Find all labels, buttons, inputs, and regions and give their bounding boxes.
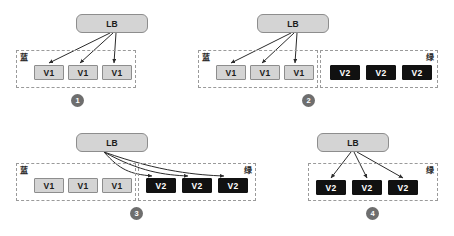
instance-node-v1[interactable]: V1	[68, 65, 98, 80]
step-badge: 4	[366, 207, 379, 220]
blue-green-deployment-diagram: LB 蓝 V1 V1 V1 1 LB 蓝 V1 V1 V1 绿 V2 V2 V2…	[0, 0, 454, 236]
instance-node-v2[interactable]: V2	[218, 178, 248, 193]
instance-node-v1[interactable]: V1	[250, 65, 280, 80]
load-balancer-node[interactable]: LB	[76, 14, 148, 33]
instance-node-v1[interactable]: V1	[34, 178, 64, 193]
step-badge: 2	[302, 94, 315, 107]
instance-node-v2[interactable]: V2	[182, 178, 212, 193]
instance-node-v2[interactable]: V2	[330, 65, 360, 80]
instance-node-v2[interactable]: V2	[402, 65, 432, 80]
instance-node-v2[interactable]: V2	[146, 178, 176, 193]
step-badge: 3	[130, 207, 143, 220]
group-label-green: 绿	[426, 54, 434, 62]
instance-node-v2[interactable]: V2	[388, 180, 418, 195]
instance-node-v1[interactable]: V1	[102, 178, 132, 193]
load-balancer-node[interactable]: LB	[257, 14, 329, 33]
instance-node-v1[interactable]: V1	[284, 65, 314, 80]
instance-node-v1[interactable]: V1	[216, 65, 246, 80]
load-balancer-node[interactable]: LB	[76, 133, 148, 152]
group-label-green: 绿	[244, 167, 252, 175]
group-label-blue: 蓝	[20, 167, 28, 175]
instance-node-v1[interactable]: V1	[34, 65, 64, 80]
instance-node-v1[interactable]: V1	[68, 178, 98, 193]
group-label-blue: 蓝	[202, 54, 210, 62]
instance-node-v2[interactable]: V2	[366, 65, 396, 80]
group-label-green: 绿	[426, 167, 434, 175]
step-badge: 1	[71, 94, 84, 107]
group-label-blue: 蓝	[20, 54, 28, 62]
instance-node-v2[interactable]: V2	[352, 180, 382, 195]
instance-node-v2[interactable]: V2	[316, 180, 346, 195]
instance-node-v1[interactable]: V1	[102, 65, 132, 80]
load-balancer-node[interactable]: LB	[317, 133, 389, 152]
